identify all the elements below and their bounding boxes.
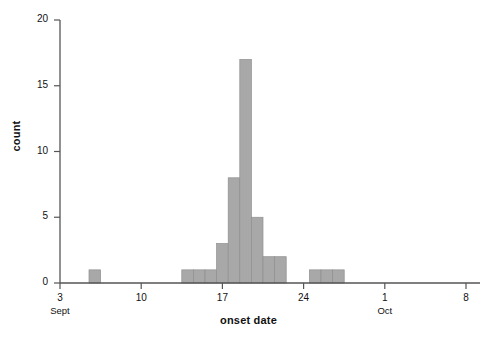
histogram-bar: [333, 270, 345, 283]
histogram-bar: [182, 270, 194, 283]
x-tick-label: 1: [365, 292, 405, 303]
histogram-bar: [205, 270, 217, 283]
y-tick-label: 15: [22, 79, 48, 90]
plot-area: [0, 0, 497, 337]
histogram-bar: [228, 178, 240, 283]
y-tick-label: 10: [22, 145, 48, 156]
histogram-bar: [321, 270, 333, 283]
histogram-bar: [275, 257, 287, 283]
histogram-bar: [309, 270, 321, 283]
x-tick-label: 8: [446, 292, 486, 303]
x-tick-label: 17: [202, 292, 242, 303]
y-tick-label: 20: [22, 13, 48, 24]
histogram-bar: [217, 244, 229, 283]
y-tick-label: 0: [22, 276, 48, 287]
histogram-bar: [251, 217, 263, 283]
y-axis-title: count: [10, 106, 22, 166]
x-tick-label: 3: [40, 292, 80, 303]
x-tick-label: 10: [121, 292, 161, 303]
histogram-bar: [263, 257, 275, 283]
histogram-chart: count onset date 3Sept1017241Oct8 051015…: [0, 0, 497, 337]
histogram-bar: [193, 270, 205, 283]
bars-group: [89, 59, 344, 283]
histogram-bar: [240, 59, 252, 283]
x-month-label: Oct: [365, 305, 405, 316]
histogram-bar: [89, 270, 101, 283]
axes-group: [54, 20, 480, 289]
y-tick-label: 5: [22, 210, 48, 221]
x-tick-label: 24: [284, 292, 324, 303]
x-month-label: Sept: [40, 305, 80, 316]
